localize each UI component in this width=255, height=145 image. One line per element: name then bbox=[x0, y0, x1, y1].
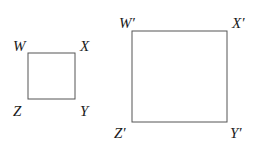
label-z: Z bbox=[13, 103, 22, 119]
label-z-prime: Z′ bbox=[114, 125, 126, 141]
diagram-canvas: W X Y Z W′ X′ Y′ Z′ bbox=[0, 0, 255, 145]
label-w: W bbox=[13, 38, 27, 54]
small-square bbox=[28, 53, 75, 99]
large-square bbox=[132, 31, 227, 122]
label-x-prime: X′ bbox=[231, 15, 245, 31]
label-y: Y bbox=[80, 103, 90, 119]
label-y-prime: Y′ bbox=[230, 125, 242, 141]
label-w-prime: W′ bbox=[119, 15, 135, 31]
label-x: X bbox=[79, 38, 90, 54]
